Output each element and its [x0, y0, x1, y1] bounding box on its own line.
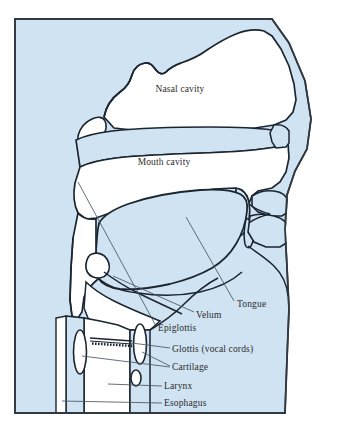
- label-tongue: Tongue: [237, 299, 266, 309]
- anatomy-figure: Nasal cavity Mouth cavity Tongue Velum E…: [0, 0, 338, 427]
- upper-lip: [252, 191, 288, 216]
- vocal-tract-diagram: Nasal cavity Mouth cavity Tongue Velum E…: [0, 0, 338, 427]
- label-nasal-cavity: Nasal cavity: [155, 84, 204, 94]
- esophagus-tube: [56, 316, 66, 413]
- label-esophagus: Esophagus: [164, 398, 207, 408]
- label-larynx: Larynx: [164, 381, 192, 391]
- trachea-lumen: [84, 318, 130, 413]
- epiglottis-flap: [86, 253, 109, 278]
- label-mouth-cavity: Mouth cavity: [138, 157, 191, 167]
- label-velum: Velum: [196, 310, 222, 320]
- nose: [270, 125, 289, 148]
- label-glottis: Glottis (vocal cords): [172, 344, 253, 355]
- cricoid-cartilage: [131, 370, 141, 386]
- thyroid-cartilage-left: [74, 330, 87, 374]
- label-cartilage: Cartilage: [172, 362, 208, 372]
- label-epiglottis: Epiglottis: [158, 323, 197, 333]
